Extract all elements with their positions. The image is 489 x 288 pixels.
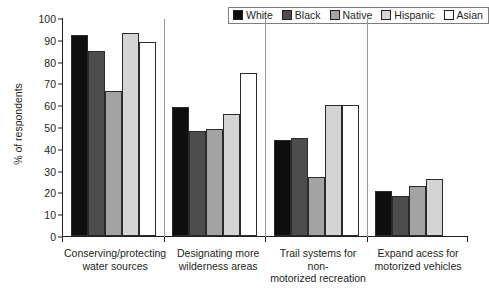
y-tick-mark bbox=[58, 149, 62, 150]
y-tick-mark bbox=[58, 84, 62, 85]
y-tick-mark bbox=[58, 62, 62, 63]
bar-group bbox=[266, 18, 367, 236]
bar-white[interactable] bbox=[172, 107, 189, 236]
bar-asian[interactable] bbox=[342, 105, 359, 236]
y-tick-label: 20 bbox=[22, 187, 62, 199]
x-category-label: Conserving/protectingwater sources bbox=[62, 247, 168, 285]
x-tick-mark bbox=[367, 237, 368, 242]
bar-white[interactable] bbox=[71, 35, 88, 236]
y-tick-label: 70 bbox=[22, 78, 62, 90]
bar-group bbox=[164, 18, 265, 236]
x-tick-mark bbox=[265, 237, 266, 242]
x-category-label: Designating morewilderness areas bbox=[168, 247, 268, 285]
bar-black[interactable] bbox=[291, 138, 308, 236]
x-category-label: Expand acess formotorized vehicles bbox=[368, 247, 468, 285]
y-tick-label: 60 bbox=[22, 100, 62, 112]
bar-hispanic[interactable] bbox=[426, 179, 443, 236]
bar-native[interactable] bbox=[206, 129, 223, 236]
y-tick-mark bbox=[58, 128, 62, 129]
y-tick-label: 80 bbox=[22, 57, 62, 69]
y-tick-label: 0 bbox=[22, 231, 62, 243]
bar-hispanic[interactable] bbox=[325, 105, 342, 236]
bar-asian[interactable] bbox=[139, 42, 156, 236]
bar-native[interactable] bbox=[308, 177, 325, 236]
y-tick-label: 10 bbox=[22, 209, 62, 221]
group-separator bbox=[265, 19, 266, 237]
bar-white[interactable] bbox=[375, 191, 392, 236]
bar-group bbox=[63, 18, 164, 236]
y-tick-label: 90 bbox=[22, 35, 62, 47]
x-tick-mark bbox=[164, 237, 165, 242]
y-tick-mark bbox=[58, 19, 62, 20]
x-tick-mark bbox=[62, 237, 63, 242]
x-category-label: Trail systems for non-motorized recreati… bbox=[268, 247, 368, 285]
x-tick-mark bbox=[467, 237, 468, 242]
bar-asian[interactable] bbox=[240, 73, 257, 237]
y-tick-mark bbox=[58, 193, 62, 194]
bar-black[interactable] bbox=[88, 51, 105, 236]
bar-white[interactable] bbox=[274, 140, 291, 236]
bar-black[interactable] bbox=[392, 196, 409, 236]
y-tick-label: 40 bbox=[22, 144, 62, 156]
group-separator bbox=[367, 19, 368, 237]
y-tick-mark bbox=[58, 40, 62, 41]
x-axis-category-labels: Conserving/protectingwater sourcesDesign… bbox=[62, 247, 468, 285]
group-separator bbox=[164, 19, 165, 237]
y-tick-mark bbox=[58, 215, 62, 216]
bar-native[interactable] bbox=[409, 186, 426, 236]
bar-native[interactable] bbox=[105, 91, 122, 236]
bar-group bbox=[367, 18, 468, 236]
y-tick-mark bbox=[58, 171, 62, 172]
y-tick-label: 100 bbox=[22, 13, 62, 25]
plot-area: 0102030405060708090100 bbox=[62, 18, 468, 237]
y-tick-mark bbox=[58, 106, 62, 107]
y-tick-label: 50 bbox=[22, 122, 62, 134]
bar-hispanic[interactable] bbox=[223, 114, 240, 236]
bar-black[interactable] bbox=[189, 131, 206, 236]
bar-hispanic[interactable] bbox=[122, 33, 139, 236]
y-tick-label: 30 bbox=[22, 166, 62, 178]
